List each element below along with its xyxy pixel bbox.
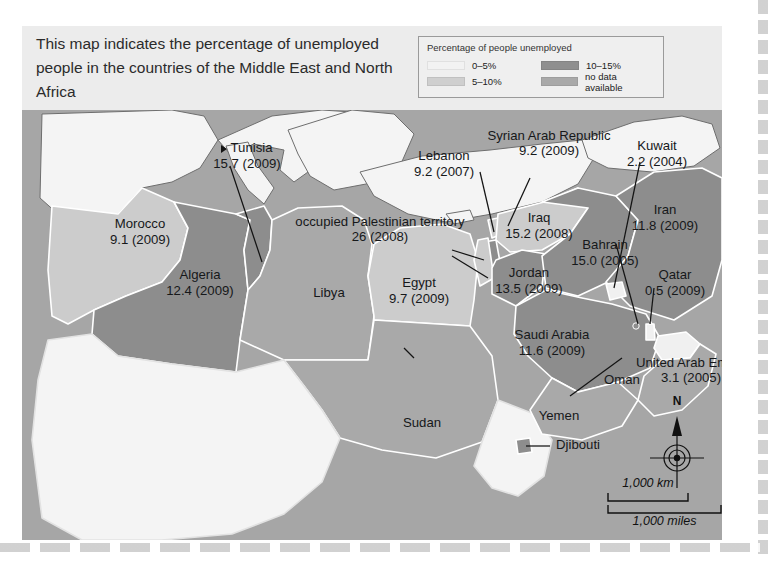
page-edge-strip-right — [758, 0, 768, 560]
map-caption: This map indicates the percentage of une… — [36, 32, 416, 104]
region-egypt — [368, 224, 478, 326]
map-legend: Percentage of people unemployed 0–5% 10–… — [418, 36, 664, 98]
legend-swatch-5-10 — [427, 77, 465, 86]
legend-title: Percentage of people unemployed — [427, 42, 655, 54]
legend-label-5-10: 5–10% — [472, 76, 502, 87]
compass-north-label: N — [661, 394, 693, 408]
page-edge-strip-bottom — [0, 543, 760, 552]
scale-label-miles: 1,000 miles — [608, 514, 721, 528]
map-canvas: Morocco 9.1 (2009) Algeria 12.4 (2009) T… — [22, 110, 722, 540]
legend-item-0-5: 0–5% — [427, 58, 541, 74]
legend-items: 0–5% 10–15% 5–10% no data available — [427, 58, 655, 90]
legend-item-no-data: no data available — [541, 74, 655, 90]
scale-label-km: 1,000 km — [608, 476, 688, 490]
region-qatar — [646, 324, 655, 340]
region-kuwait — [606, 282, 626, 300]
legend-label-0-5: 0–5% — [472, 60, 496, 71]
page-root: This map indicates the percentage of une… — [0, 0, 768, 570]
legend-swatch-0-5 — [427, 61, 465, 70]
legend-label-10-15: 10–15% — [586, 60, 621, 71]
legend-item-5-10: 5–10% — [427, 74, 541, 90]
legend-swatch-no-data — [541, 77, 578, 86]
legend-swatch-10-15 — [541, 61, 579, 70]
legend-label-no-data: no data available — [585, 71, 655, 93]
